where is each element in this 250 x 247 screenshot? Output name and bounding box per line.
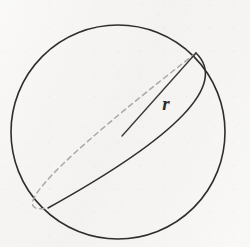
sphere-diagram-canvas: r bbox=[0, 0, 250, 247]
sphere-diagram-figure: r bbox=[0, 0, 250, 247]
radius-line bbox=[122, 53, 196, 136]
radius-label: r bbox=[162, 93, 170, 114]
great-circle-hidden-arc bbox=[32, 53, 196, 209]
